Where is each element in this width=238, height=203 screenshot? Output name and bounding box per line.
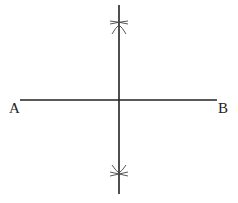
point-a-label: A <box>9 100 20 116</box>
point-b-label: B <box>218 100 228 116</box>
perpendicular-bisector-diagram: A B <box>0 0 238 203</box>
